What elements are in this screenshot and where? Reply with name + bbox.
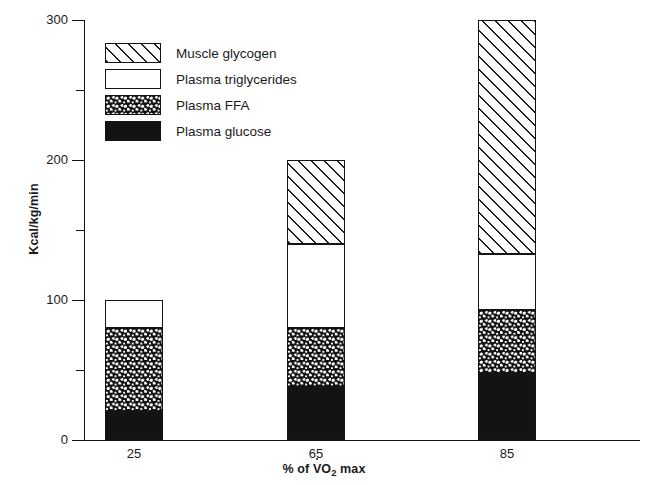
x-axis-title-suffix: max (337, 462, 366, 476)
bar-segment-plasma-triglycerides-65 (287, 244, 345, 328)
bar-segment-plasma-triglycerides-85 (478, 254, 536, 310)
y-tick-mark-50 (76, 370, 84, 371)
bar-segment-plasma-glucose-25 (105, 412, 163, 440)
bar-segment-plasma-glucose-85 (478, 373, 536, 440)
bar-segment-plasma-ffa-65 (287, 328, 345, 387)
y-tick-mark-200 (72, 160, 84, 161)
y-tick-mark-0 (72, 440, 84, 441)
bar-segment-plasma-ffa-85 (478, 310, 536, 373)
bar-segment-muscle-glycogen-85 (478, 20, 536, 254)
legend-label-plasma-triglycerides: Plasma triglycerides (176, 72, 297, 87)
y-tick-label-200: 200 (22, 153, 68, 166)
legend-item-plasma-ffa: Plasma FFA (105, 92, 395, 118)
x-axis-title-prefix: % of (283, 462, 313, 476)
legend-item-muscle-glycogen: Muscle glycogen (105, 40, 395, 66)
y-tick-mark-100 (72, 300, 84, 301)
x-axis-title-o: O (321, 462, 331, 476)
x-tick-label-85: 85 (462, 447, 552, 461)
stacked-bar-chart: Kcal/kg/min 300 200 100 0 25 65 85 % o (0, 0, 648, 485)
y-tick-mark-300 (72, 20, 84, 21)
legend-swatch-plasma-triglycerides-icon (105, 69, 161, 89)
bar-segment-plasma-glucose-65 (287, 387, 345, 440)
bar-segment-plasma-triglycerides-25 (105, 300, 163, 328)
bar-group-85 (478, 20, 536, 440)
legend-label-plasma-ffa: Plasma FFA (176, 98, 250, 113)
x-axis-title-subscript: 2 (331, 467, 336, 478)
bar-segment-plasma-ffa-25 (105, 328, 163, 412)
v-dot-symbol: V (313, 462, 321, 476)
y-axis-tick-labels: 300 200 100 0 (22, 0, 68, 485)
legend-swatch-plasma-glucose-icon (105, 121, 161, 141)
bar-segment-muscle-glycogen-65 (287, 160, 345, 244)
legend-item-plasma-triglycerides: Plasma triglycerides (105, 66, 395, 92)
legend-label-plasma-glucose: Plasma glucose (176, 124, 271, 139)
legend-item-plasma-glucose: Plasma glucose (105, 118, 395, 144)
x-axis-line (84, 440, 640, 441)
legend-swatch-plasma-ffa-icon (105, 95, 161, 115)
x-tick-label-25: 25 (89, 447, 179, 461)
y-tick-label-300: 300 (22, 13, 68, 26)
y-tick-mark-250 (76, 90, 84, 91)
legend-label-muscle-glycogen: Muscle glycogen (176, 46, 277, 61)
y-tick-mark-150 (76, 230, 84, 231)
legend-swatch-muscle-glycogen-icon (105, 43, 161, 63)
y-axis-line (84, 20, 85, 441)
x-axis-title: % of VO2 max (0, 462, 648, 476)
y-tick-label-0: 0 (22, 433, 68, 446)
y-tick-label-100: 100 (22, 293, 68, 306)
legend: Muscle glycogen Plasma triglycerides Pla… (105, 40, 395, 144)
